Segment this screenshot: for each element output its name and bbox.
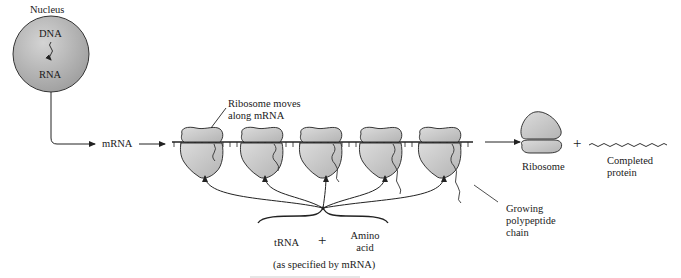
inputs-brace (258, 208, 388, 223)
ribosome-5 (418, 127, 460, 178)
ribosome-moves-label-line2: along mRNA (228, 110, 284, 122)
growing-chain-leader (474, 185, 498, 202)
completed-protein-label-line2: protein (607, 167, 637, 179)
ribosome-1 (180, 127, 222, 178)
mrna-export-arrow (51, 92, 95, 144)
rna-label: RNA (39, 69, 61, 81)
trna-label: tRNA (274, 237, 299, 249)
amino-acid-label-line2: acid (345, 242, 385, 254)
growing-chain-label-line2: polypeptide (506, 215, 556, 227)
amino-acid-label-line1: Amino (345, 230, 385, 242)
completed-protein-label-line1: Completed (607, 155, 653, 167)
trna-input-arrows (205, 176, 444, 208)
nucleus-label: Nucleus (30, 4, 64, 16)
mrna-label: mRNA (102, 138, 132, 150)
released-ribosome (521, 112, 562, 153)
as-specified-note: (as specified by mRNA) (273, 259, 375, 271)
growing-chain-label-line1: Growing (506, 203, 543, 215)
ribosome-3 (299, 127, 341, 178)
ribosome-2 (240, 127, 282, 178)
dna-label: DNA (39, 28, 62, 40)
ribosome-4 (359, 127, 401, 178)
growing-chain-label-line3: chain (506, 227, 529, 239)
ribosome-moves-leader (211, 108, 226, 128)
completed-protein-wave (589, 144, 667, 147)
ribosome-moves-label-line1: Ribosome moves (228, 98, 301, 110)
inputs-plus-sign: + (318, 234, 326, 246)
protein-plus-sign: + (573, 137, 581, 149)
released-ribosome-label: Ribosome (522, 161, 565, 173)
